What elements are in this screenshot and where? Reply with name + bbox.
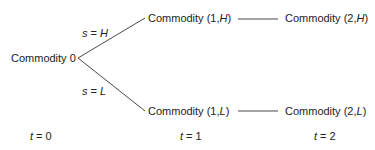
state-value: L	[100, 85, 106, 97]
node-label-prefix: Commodity (1,	[148, 12, 220, 24]
node-label-prefix: Commodity (1,	[148, 105, 220, 117]
equals: =	[88, 27, 101, 39]
node-label-suffix: )	[227, 12, 231, 24]
equals: =	[183, 130, 196, 142]
node-commodity-0: Commodity 0	[11, 52, 76, 64]
node-commodity-1-high: Commodity (1,H)	[148, 12, 231, 24]
node-label: Commodity 0	[11, 52, 76, 64]
time-value: 0	[46, 130, 52, 142]
node-label-prefix: Commodity (2,	[285, 105, 357, 117]
node-commodity-2-high: Commodity (2,H)	[285, 12, 368, 24]
node-commodity-1-low: Commodity (1,L)	[148, 105, 229, 117]
node-label-suffix: )	[364, 12, 368, 24]
time-label-1: t = 1	[180, 130, 202, 142]
equals: =	[88, 85, 101, 97]
time-value: 1	[196, 130, 202, 142]
node-commodity-2-low: Commodity (2,L)	[285, 105, 366, 117]
node-label-suffix: )	[226, 105, 230, 117]
time-value: 2	[330, 130, 336, 142]
equals: =	[317, 130, 330, 142]
commodity-tree-diagram: Commodity 0 s = H s = L Commodity (1,H) …	[0, 0, 375, 150]
branch-label-low: s = L	[82, 85, 106, 97]
node-label-suffix: )	[363, 105, 367, 117]
equals: =	[33, 130, 46, 142]
time-label-0: t = 0	[30, 130, 52, 142]
time-label-2: t = 2	[314, 130, 336, 142]
state-value: H	[100, 27, 108, 39]
node-label-prefix: Commodity (2,	[285, 12, 357, 24]
branch-label-high: s = H	[82, 27, 108, 39]
